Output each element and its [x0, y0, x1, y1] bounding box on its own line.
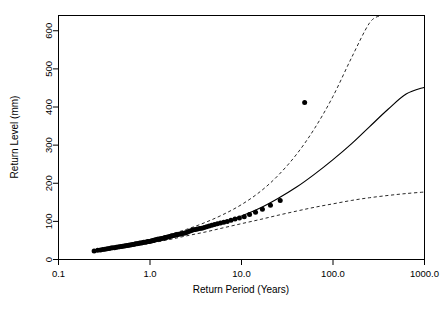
- y-tick-label: 200: [43, 175, 54, 191]
- data-point: [253, 210, 258, 215]
- chart-canvas: 0.11.010.0100.01000.0 010020030040050060…: [0, 0, 448, 310]
- plot-frame-group: [59, 16, 425, 260]
- data-point: [237, 215, 242, 220]
- fitted-curve-line: [95, 87, 425, 251]
- scatter-points: [92, 100, 308, 254]
- data-point: [232, 217, 237, 222]
- y-tick-label: 0: [43, 257, 54, 262]
- plot-frame: [59, 16, 425, 260]
- x-axis-title: Return Period (Years): [193, 284, 289, 295]
- return-level-plot: 0.11.010.0100.01000.0 010020030040050060…: [0, 0, 448, 310]
- data-point: [242, 214, 247, 219]
- y-tick-label: 300: [43, 137, 54, 153]
- y-axis-tick-labels: 0100200300400500600: [43, 23, 54, 262]
- x-axis-ticks: [59, 260, 425, 266]
- clipped-series: [92, 16, 425, 254]
- data-point: [278, 198, 283, 203]
- y-tick-label: 500: [43, 61, 54, 77]
- x-tick-label: 10.0: [232, 268, 251, 279]
- x-axis-tick-labels: 0.11.010.0100.01000.0: [52, 268, 439, 279]
- x-tick-label: 0.1: [52, 268, 65, 279]
- data-point: [302, 100, 307, 105]
- data-point: [260, 207, 265, 212]
- confidence-band-line: [95, 16, 381, 250]
- y-tick-label: 600: [43, 23, 54, 39]
- x-tick-label: 1000.0: [410, 268, 439, 279]
- x-tick-label: 100.0: [321, 268, 345, 279]
- data-point: [247, 212, 252, 217]
- data-point: [268, 203, 273, 208]
- y-axis-title: Return Level (mm): [9, 96, 20, 179]
- y-tick-label: 100: [43, 213, 54, 229]
- series-layer: [92, 16, 425, 254]
- x-tick-label: 1.0: [143, 268, 156, 279]
- y-tick-label: 400: [43, 99, 54, 115]
